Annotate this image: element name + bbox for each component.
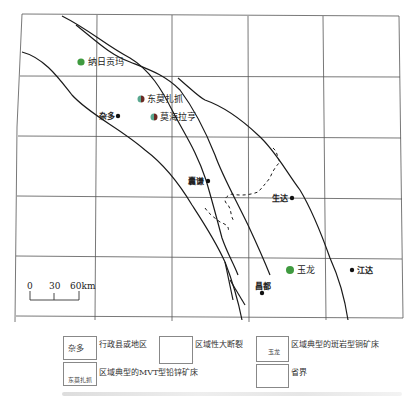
legend-box-fault [159,336,193,364]
legend-box-province [256,364,289,388]
scale-label-0: 0 [27,281,33,291]
legend-porphyry-symbol-label: 玉龙 [268,347,280,356]
legend-porphyry-text: 区域典型的斑岩型铜矿床 [291,340,379,350]
deposit-label-dongmozazhua: 东莫扎抓 [147,94,183,104]
legend-province-text: 省界 [291,368,307,378]
porphyry-deposit-markers [77,58,294,274]
county-label-zaduo: 杂多 [99,111,115,121]
scale-label-30: 30 [49,281,60,291]
legend-fault-text: 区域性大断裂 [195,340,243,350]
deposit-label-mohailaheng: 莫海拉亨 [160,112,196,122]
legend-county-symbol-label: 杂多 [68,342,84,353]
deposit-label-yulong: 玉龙 [297,265,315,275]
scale-bar [30,291,79,300]
county-label-jiangda: 江达 [357,265,373,275]
deposit-label-narigongma: 纳日贡玛 [88,57,124,67]
legend-county-text: 行政县或地区 [99,340,147,350]
legend-mvt-symbol-label: 东莫扎抓 [68,375,92,384]
graticule [15,14,403,322]
figure-caption-illegible [62,392,402,396]
legend-mvt-text: 区域典型的MVT型铅锌矿床 [99,368,198,378]
county-label-nangqian: 囊谦 [188,176,204,186]
province-border [205,148,280,232]
county-label-shengda: 生达 [272,193,288,203]
scale-label-60km: 60km [70,281,95,291]
county-label-changdu: 昌都 [255,281,271,291]
